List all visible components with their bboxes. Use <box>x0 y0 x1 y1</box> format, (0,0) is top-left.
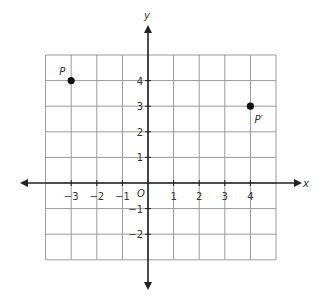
x-axis-left-arrow-icon <box>20 179 28 187</box>
coordinate-plane: −3−2−112344321−1−2 PP′ x y O <box>0 0 323 303</box>
x-tick-label: 2 <box>196 191 202 202</box>
y-tick-label: −1 <box>128 204 143 215</box>
x-tick-label: −1 <box>115 191 130 202</box>
point-marker <box>247 103 254 110</box>
x-axis-label: x <box>302 178 309 189</box>
x-tick-label: 1 <box>170 191 176 202</box>
y-tick-label: 1 <box>137 152 143 163</box>
x-tick-label: 3 <box>222 191 228 202</box>
y-tick-label: 2 <box>137 127 143 138</box>
y-tick-label: 4 <box>137 76 143 87</box>
origin-label: O <box>137 188 145 199</box>
points: PP′ <box>59 66 263 126</box>
x-tick-label: −3 <box>64 191 79 202</box>
y-axis-down-arrow-icon <box>144 282 152 290</box>
y-axis-up-arrow-icon <box>144 25 152 33</box>
point-label: P <box>59 66 66 77</box>
point-marker <box>68 77 75 84</box>
x-tick-label: 4 <box>247 191 253 202</box>
grid <box>46 55 276 260</box>
x-axis-right-arrow-icon <box>294 179 302 187</box>
point-label: P′ <box>254 114 263 125</box>
y-tick-label: 3 <box>137 101 143 112</box>
x-tick-label: −2 <box>89 191 104 202</box>
y-axis-label: y <box>143 10 151 21</box>
y-tick-label: −2 <box>128 229 143 240</box>
